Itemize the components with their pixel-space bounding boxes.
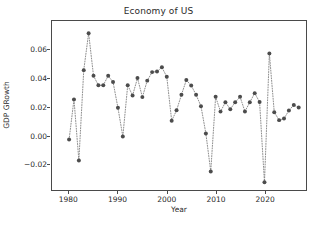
- data-point-marker: [253, 91, 257, 95]
- data-point-marker: [184, 78, 188, 82]
- data-point-marker: [233, 100, 237, 104]
- data-point-marker: [277, 118, 281, 122]
- y-tick-mark: [47, 136, 50, 137]
- data-point-marker: [121, 134, 125, 138]
- chart-title: Economy of US: [0, 6, 317, 16]
- x-tick-mark: [117, 191, 118, 194]
- x-tick-label: 2000: [157, 195, 176, 204]
- data-point-marker: [87, 31, 91, 35]
- data-point-marker: [140, 95, 144, 99]
- data-point-marker: [106, 74, 110, 78]
- x-tick-label: 2020: [256, 195, 275, 204]
- data-point-marker: [219, 110, 223, 114]
- chart-figure: Economy of US GDP GRowth Year −0.020.000…: [0, 0, 317, 230]
- data-point-marker: [72, 97, 76, 101]
- data-point-marker: [292, 103, 296, 107]
- data-point-marker: [243, 109, 247, 113]
- data-point-marker: [199, 104, 203, 108]
- y-tick-label: −0.02: [24, 160, 47, 169]
- x-axis-label: Year: [171, 205, 187, 214]
- data-point-marker: [214, 95, 218, 99]
- data-point-marker: [282, 117, 286, 121]
- data-point-marker: [248, 100, 252, 104]
- data-point-marker: [145, 79, 149, 83]
- data-point-marker: [179, 93, 183, 97]
- x-tick-label: 1980: [59, 195, 78, 204]
- data-point-marker: [101, 83, 105, 87]
- data-point-marker: [267, 51, 271, 55]
- data-line: [69, 33, 299, 182]
- data-point-marker: [209, 169, 213, 173]
- y-tick-mark: [47, 107, 50, 108]
- x-tick-mark: [68, 191, 69, 194]
- x-tick-mark: [216, 191, 217, 194]
- data-point-marker: [165, 75, 169, 79]
- data-point-marker: [194, 93, 198, 97]
- data-point-marker: [135, 76, 139, 80]
- data-point-marker: [204, 132, 208, 136]
- data-point-marker: [111, 80, 115, 84]
- plot-area: [51, 20, 307, 191]
- x-tick-mark: [167, 191, 168, 194]
- y-tick-mark: [47, 49, 50, 50]
- data-point-marker: [258, 100, 262, 104]
- data-point-marker: [297, 106, 301, 110]
- data-point-marker: [287, 108, 291, 112]
- data-point-marker: [82, 68, 86, 72]
- data-point-marker: [126, 83, 130, 87]
- x-tick-label: 2010: [206, 195, 225, 204]
- data-point-marker: [272, 110, 276, 114]
- y-tick-mark: [47, 78, 50, 79]
- y-tick-label: 0.00: [30, 131, 47, 140]
- data-point-marker: [77, 158, 81, 162]
- y-tick-label: 0.04: [30, 74, 47, 83]
- data-point-marker: [262, 180, 266, 184]
- y-tick-label: 0.02: [30, 102, 47, 111]
- y-tick-mark: [47, 164, 50, 165]
- data-point-marker: [92, 74, 96, 78]
- data-point-marker: [175, 108, 179, 112]
- x-tick-mark: [265, 191, 266, 194]
- x-tick-label: 1990: [108, 195, 127, 204]
- data-point-marker: [170, 119, 174, 123]
- data-point-marker: [155, 70, 159, 74]
- data-point-marker: [131, 93, 135, 97]
- data-point-marker: [67, 138, 71, 142]
- data-point-marker: [96, 83, 100, 87]
- data-series-scatter: [52, 21, 306, 190]
- data-point-marker: [223, 100, 227, 104]
- data-point-marker: [150, 70, 154, 74]
- data-point-marker: [189, 84, 193, 88]
- data-point-marker: [238, 95, 242, 99]
- y-axis-tick-labels: −0.020.000.020.040.06: [0, 0, 47, 230]
- data-point-marker: [160, 65, 164, 69]
- y-tick-label: 0.06: [30, 45, 47, 54]
- data-point-marker: [116, 106, 120, 110]
- data-point-marker: [228, 107, 232, 111]
